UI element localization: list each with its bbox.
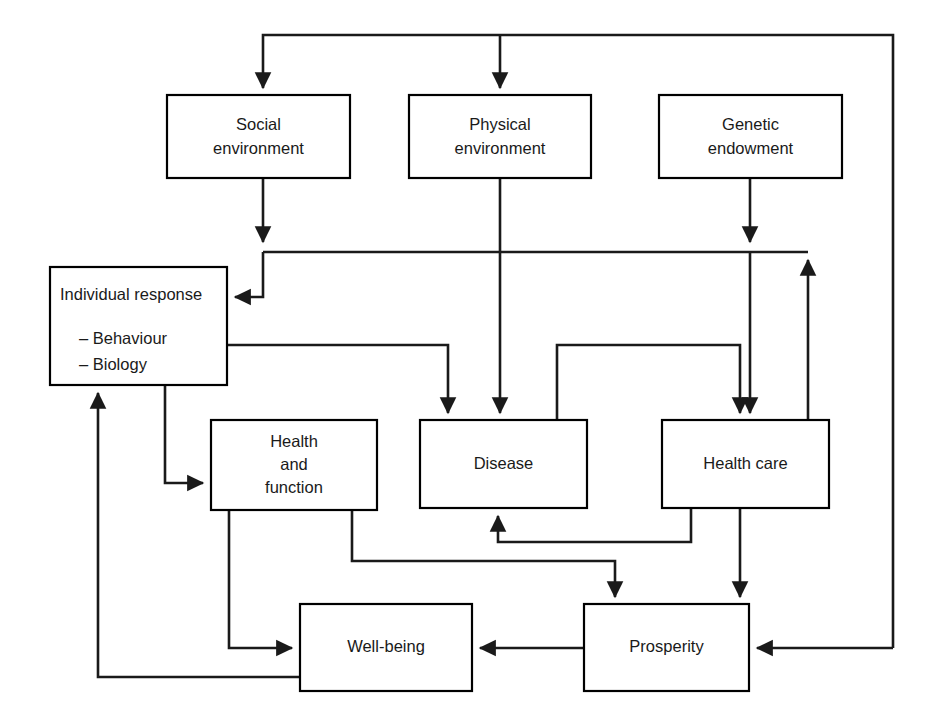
node-label-individual-response-title: Individual response xyxy=(60,285,202,303)
diagram-canvas: Social environment Physical environment … xyxy=(0,0,943,721)
node-label-health-and-function-line-2: and xyxy=(280,455,308,473)
node-label-health-and-function-line-1: Health xyxy=(270,432,318,450)
node-label-genetic-endowment-line-1: Genetic xyxy=(722,115,779,133)
node-label-social-environment-line-1: Social xyxy=(236,115,281,133)
edge-social-to-individual-response xyxy=(235,252,263,297)
node-label-physical-environment-line-2: environment xyxy=(455,139,546,157)
node-health-and-function[interactable]: Health and function xyxy=(211,420,377,510)
node-label-physical-environment-line-1: Physical xyxy=(469,115,530,133)
node-bullet-behaviour: – Behaviour xyxy=(79,329,168,347)
edge-disease-to-health-care xyxy=(557,345,740,420)
flow-diagram: Social environment Physical environment … xyxy=(0,0,943,721)
node-label-disease: Disease xyxy=(474,454,534,472)
node-prosperity[interactable]: Prosperity xyxy=(584,604,749,691)
edge-health-and-function-to-prosperity xyxy=(352,510,615,597)
node-genetic-endowment[interactable]: Genetic endowment xyxy=(659,95,842,178)
node-label-genetic-endowment-line-2: endowment xyxy=(708,139,794,157)
node-label-social-environment-line-2: environment xyxy=(213,139,304,157)
node-label-prosperity: Prosperity xyxy=(629,637,704,655)
node-layer: Social environment Physical environment … xyxy=(50,95,842,691)
edge-health-and-function-to-well-being xyxy=(229,510,292,648)
edge-individual-response-to-health-and-function xyxy=(165,385,203,483)
node-individual-response[interactable]: Individual response – Behaviour – Biolog… xyxy=(50,267,227,385)
node-physical-environment[interactable]: Physical environment xyxy=(409,95,591,178)
edge-individual-response-to-disease xyxy=(227,345,448,413)
edge-health-care-to-disease xyxy=(498,508,691,542)
node-label-health-care: Health care xyxy=(703,454,787,472)
node-well-being[interactable]: Well-being xyxy=(300,604,472,691)
node-social-environment[interactable]: Social environment xyxy=(167,95,350,178)
node-label-health-and-function-line-3: function xyxy=(265,478,323,496)
node-bullet-biology: – Biology xyxy=(79,355,148,373)
node-label-well-being: Well-being xyxy=(347,637,425,655)
node-health-care[interactable]: Health care xyxy=(662,420,829,508)
node-disease[interactable]: Disease xyxy=(420,420,587,508)
